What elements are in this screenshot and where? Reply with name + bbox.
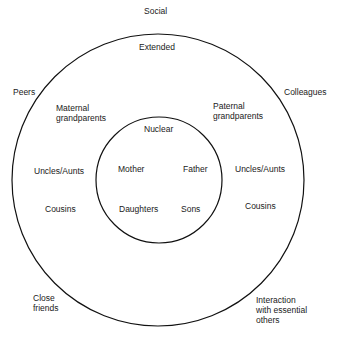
interaction-label: Interaction with essential others <box>256 295 307 325</box>
cousins-right-label: Cousins <box>245 201 276 211</box>
nuclear-label: Nuclear <box>144 124 173 134</box>
nuclear-circle <box>96 117 222 243</box>
father-label: Father <box>183 164 208 174</box>
uncles-aunts-left-label: Uncles/Aunts <box>34 166 84 176</box>
extended-circle <box>12 34 304 326</box>
peers-label: Peers <box>13 87 35 97</box>
paternal-grandparents-label: Paternal grandparents <box>213 101 263 121</box>
daughters-label: Daughters <box>119 204 158 214</box>
maternal-grandparents-label: Maternal grandparents <box>56 103 106 123</box>
cousins-left-label: Cousins <box>45 204 76 214</box>
social-label: Social <box>144 6 167 16</box>
colleagues-label: Colleagues <box>284 87 327 97</box>
close-friends-label: Close friends <box>33 293 59 313</box>
uncles-aunts-right-label: Uncles/Aunts <box>235 164 285 174</box>
extended-label: Extended <box>139 42 175 52</box>
mother-label: Mother <box>118 164 144 174</box>
sons-label: Sons <box>181 204 200 214</box>
